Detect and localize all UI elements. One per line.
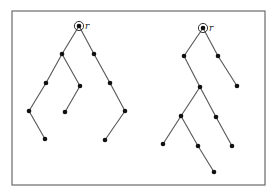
tree-node [230,144,235,149]
tree-edge [198,146,214,172]
tree-edge [163,116,181,144]
tree-edge [62,54,80,86]
tree-edge [65,86,80,112]
tree-node [108,81,113,86]
tree-node [235,84,240,89]
tree-edge [181,87,200,116]
right-tree-edges [163,28,237,172]
tree-edge [200,87,216,117]
right-tree: r [161,23,240,174]
tree-edge [181,116,198,146]
tree-node [103,138,108,143]
figure-frame [12,11,265,185]
tree-edge [29,111,45,139]
tree-edge [216,117,232,146]
tree-node [123,109,128,114]
left-tree: r [27,21,128,142]
tree-edge [110,83,125,111]
tree-node [179,114,184,119]
tree-node [43,137,48,142]
tree-node [44,81,49,86]
tree-edge [46,54,62,83]
tree-edge [184,56,200,87]
tree-edge [105,111,125,140]
root-node [77,24,82,29]
right-root-label: r [209,23,214,33]
tree-node [196,144,201,149]
tree-node [182,54,187,59]
tree-node [198,85,203,90]
tree-node [212,170,217,175]
tree-node [161,142,166,147]
tree-node [214,115,219,120]
tree-diagram: r r [0,0,277,195]
tree-edge [29,83,46,111]
tree-node [27,109,32,114]
left-root-label: r [85,21,90,31]
left-tree-nodes [27,21,128,142]
tree-node [78,84,83,89]
tree-node [92,52,97,57]
tree-node [63,110,68,115]
tree-edge [218,56,237,86]
tree-node [216,54,221,59]
tree-node [60,52,65,57]
right-tree-nodes [161,23,240,174]
tree-edge [94,54,110,83]
root-node [201,26,206,31]
tree-edge [184,28,203,56]
